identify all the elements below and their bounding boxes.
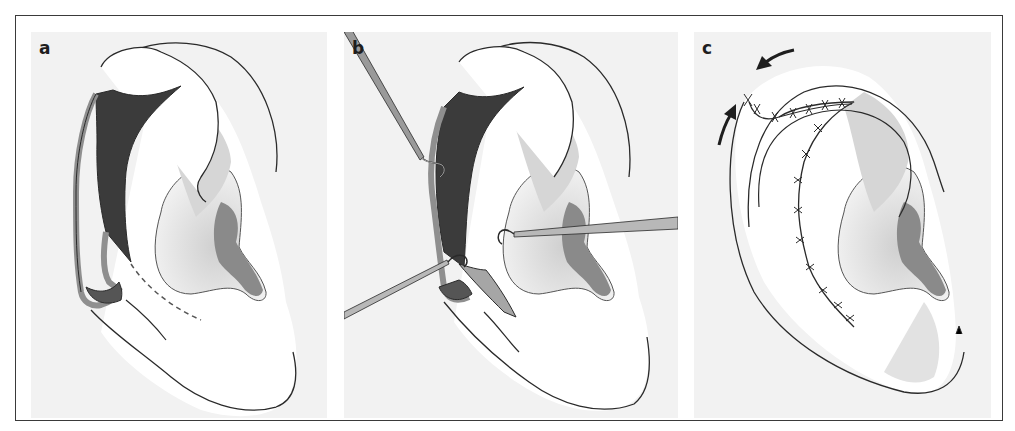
panel-label-c: c xyxy=(702,38,712,58)
panel-c: c xyxy=(694,32,991,418)
panel-label-b: b xyxy=(352,38,364,58)
panel-label-a: a xyxy=(39,38,50,58)
ear-illustration-c xyxy=(694,32,991,418)
panel-b: b xyxy=(344,32,678,418)
panel-a: a xyxy=(31,32,327,418)
ear-illustration-b xyxy=(344,32,678,418)
ear-illustration-a xyxy=(31,32,327,418)
arrow-top-icon xyxy=(756,50,794,70)
